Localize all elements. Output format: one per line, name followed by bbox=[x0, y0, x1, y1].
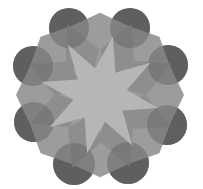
circle-overlap bbox=[147, 105, 187, 145]
circle-overlap bbox=[14, 102, 54, 142]
circle-overlap bbox=[107, 142, 149, 184]
rosette-svg bbox=[0, 0, 203, 189]
circle-overlap bbox=[110, 8, 150, 48]
rosette-figure bbox=[0, 0, 203, 189]
circle-overlap bbox=[148, 45, 188, 85]
circle-overlap bbox=[49, 8, 89, 48]
circle-overlap bbox=[13, 46, 53, 86]
